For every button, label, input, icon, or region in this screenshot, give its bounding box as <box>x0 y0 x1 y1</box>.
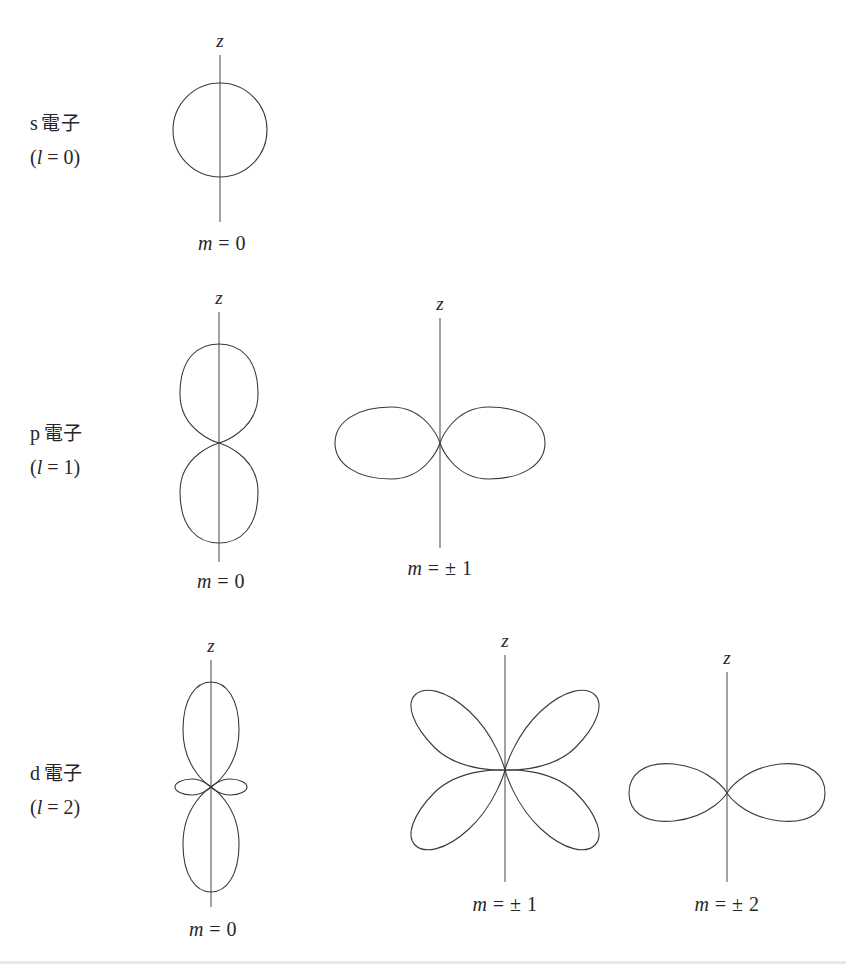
row-sublabel-d: (l = 2) <box>30 796 80 819</box>
m-label-d-mpm2-symbol: m <box>694 893 709 915</box>
row-sublabel-s-value: = 0) <box>47 146 80 168</box>
d-mpm1-lobe-upper-right <box>505 690 599 770</box>
m-label-p-m0: m = 0 <box>197 570 245 593</box>
m-label-d-m0-symbol: m <box>189 918 204 940</box>
row-sublabel-d-l: l <box>37 796 43 818</box>
row-label-d-shell: d <box>30 762 41 784</box>
row-label-d: d電子 <box>30 758 83 785</box>
orbital-figure: s電子 (l = 0) p電子 (l = 1) d電子 (l = 2) z z … <box>0 0 846 964</box>
row-sublabel-s: (l = 0) <box>30 146 80 169</box>
m-label-p-mpm1-value: = ± 1 <box>428 557 473 579</box>
m-label-d-mpm1-symbol: m <box>472 893 487 915</box>
z-axis-label-d-mpm2: z <box>723 647 730 669</box>
m-label-s-m0: m = 0 <box>198 232 246 255</box>
s-orbital-sphere <box>173 83 267 177</box>
z-axis-label-d-m0: z <box>207 635 214 657</box>
row-sublabel-s-l: l <box>37 146 43 168</box>
m-label-d-mpm2: m = ± 2 <box>694 893 759 916</box>
z-axis-label-d-mpm1: z <box>501 630 508 652</box>
row-sublabel-d-value: = 2) <box>47 796 80 818</box>
row-label-d-word: 電子 <box>44 762 83 784</box>
m-label-s-m0-symbol: m <box>198 232 213 254</box>
p-m0-lobe-upper <box>180 344 258 443</box>
row-label-s-word: 電子 <box>41 112 80 134</box>
orbital-group-d-mpm2 <box>629 672 825 882</box>
row-label-p: p電子 <box>30 418 83 445</box>
row-label-p-shell: p <box>30 422 41 444</box>
row-sublabel-d-open: ( <box>30 796 37 818</box>
d-m0-small-lobe-right <box>211 779 247 795</box>
d-mpm2-lobe-left <box>629 764 727 822</box>
m-label-d-mpm1-value: = ± 1 <box>493 893 538 915</box>
m-label-s-m0-value: = 0 <box>218 232 246 254</box>
orbital-group-d-mpm1 <box>411 655 599 882</box>
orbital-group-d-m0 <box>175 660 247 907</box>
row-sublabel-p: (l = 1) <box>30 456 80 479</box>
row-label-s: s電子 <box>30 108 80 135</box>
m-label-d-mpm1: m = ± 1 <box>472 893 537 916</box>
row-sublabel-p-open: ( <box>30 456 37 478</box>
m-label-p-mpm1-symbol: m <box>407 557 422 579</box>
orbital-group-p-m0 <box>180 312 258 562</box>
d-mpm1-lobe-lower-left <box>411 770 505 850</box>
orbital-group-p-mpm1 <box>335 318 545 548</box>
orbital-group-s-m0 <box>173 55 267 222</box>
z-axis-label-p-mpm1: z <box>436 293 443 315</box>
d-m0-lobe-lower <box>183 787 239 892</box>
row-sublabel-s-open: ( <box>30 146 37 168</box>
m-label-p-mpm1: m = ± 1 <box>407 557 472 580</box>
row-label-p-word: 電子 <box>44 422 83 444</box>
m-label-p-m0-symbol: m <box>197 570 212 592</box>
m-label-d-m0: m = 0 <box>189 918 237 941</box>
orbital-drawing-canvas <box>0 0 846 964</box>
row-label-s-shell: s <box>30 112 38 134</box>
z-axis-label-p-m0: z <box>215 287 222 309</box>
z-axis-label-s-m0: z <box>216 30 223 52</box>
d-mpm1-lobe-lower-right <box>505 770 599 850</box>
d-mpm2-lobe-right <box>727 764 825 822</box>
d-m0-small-lobe-left <box>175 779 211 795</box>
d-m0-lobe-upper <box>183 682 239 787</box>
d-mpm1-lobe-upper-left <box>411 690 505 770</box>
row-sublabel-p-value: = 1) <box>47 456 80 478</box>
row-sublabel-p-l: l <box>37 456 43 478</box>
p-mpm1-lobe-right <box>440 407 545 479</box>
m-label-d-m0-value: = 0 <box>209 918 237 940</box>
m-label-d-mpm2-value: = ± 2 <box>715 893 760 915</box>
p-mpm1-lobe-left <box>335 407 440 479</box>
p-m0-lobe-lower <box>180 443 258 543</box>
m-label-p-m0-value: = 0 <box>217 570 245 592</box>
